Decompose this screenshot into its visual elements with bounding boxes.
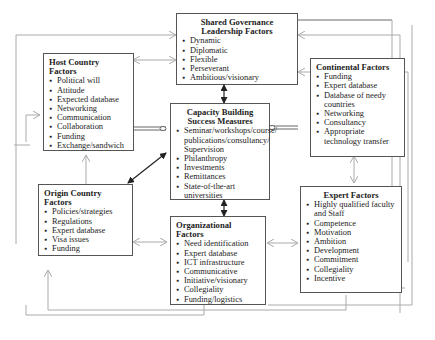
list-item: Ambition (306, 237, 396, 246)
list-item: Competence (306, 219, 396, 228)
list-item: Visa issues (44, 235, 127, 244)
box-title: Host Country Factors (49, 58, 128, 76)
box-title: Continental Factors (316, 63, 399, 72)
list-item: Remittances (176, 172, 264, 181)
list-item: Flexible (182, 55, 292, 64)
list-item: Expert database (176, 249, 260, 258)
expert-box: Expert Factors Highly qualified faculty … (300, 186, 402, 293)
list-item: Philanthropy (176, 154, 264, 163)
list-item: Collegiality (176, 285, 260, 294)
list-item: Collaboration (49, 122, 128, 131)
box-title: Expert Factors (306, 191, 396, 200)
host-country-box: Host Country Factors Political will Atti… (43, 53, 134, 151)
box-title: Capacity Building Success Measures (176, 108, 264, 126)
list-item: Attitude (49, 86, 128, 95)
list-item: Regulations (44, 217, 127, 226)
list-item: Consultancy (316, 118, 399, 127)
shared-governance-box: Shared Governance Leadership Factors Dyn… (176, 13, 298, 85)
list-item: Highly qualified faculty and Staff (306, 200, 396, 218)
list-item: ICT infrastructure (176, 258, 260, 267)
list-item: Perseverant (182, 64, 292, 73)
list-item: Seminar/workshops/course/ publications/c… (176, 126, 264, 154)
list-item: Funding (44, 244, 127, 253)
list-item: Motivation (306, 228, 396, 237)
list-item: Diplomatic (182, 46, 292, 55)
list-item: Political will (49, 76, 128, 85)
list-item: Database of needy countries (316, 91, 399, 109)
box-title: Organizational Factors (176, 221, 260, 239)
list-item: Networking (49, 104, 128, 113)
continental-box: Continental Factors Funding Expert datab… (310, 58, 405, 157)
list-item: Funding (49, 132, 128, 141)
capacity-building-box: Capacity Building Success Measures Semin… (170, 103, 270, 200)
list-item: Collegiality (306, 265, 396, 274)
list-item: Funding/logistics (176, 295, 260, 304)
list-item: State-of-the-art universities (176, 182, 264, 200)
list-item: Exchange/sandwich (49, 141, 128, 150)
list-item: Development (306, 246, 396, 255)
box-title: Shared Governance Leadership Factors (182, 18, 292, 36)
list-item: Appropriate technology transfer (316, 127, 399, 145)
list-item: Policies/strategies (44, 207, 127, 216)
list-item: Expert database (44, 226, 127, 235)
list-item: Initiative/visionary (176, 276, 260, 285)
list-item: Expert database (316, 81, 399, 90)
list-item: Ambitious/visionary (182, 73, 292, 82)
list-item: Expected database (49, 95, 128, 104)
box-title: Origin Country Factors (44, 189, 127, 207)
list-item: Communication (49, 113, 128, 122)
list-item: Incentive (306, 274, 396, 283)
list-item: Communicative (176, 267, 260, 276)
list-item: Funding (316, 72, 399, 81)
list-item: Investments (176, 163, 264, 172)
list-item: Networking (316, 109, 399, 118)
list-item: Dynamic (182, 36, 292, 45)
list-item: Commitment (306, 255, 396, 264)
origin-country-box: Origin Country Factors Policies/strategi… (38, 184, 133, 256)
organizational-box: Organizational Factors Need identificati… (170, 216, 266, 305)
list-item: Need identification (176, 239, 260, 248)
